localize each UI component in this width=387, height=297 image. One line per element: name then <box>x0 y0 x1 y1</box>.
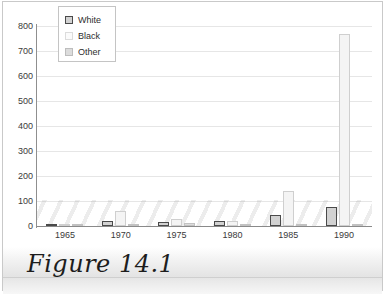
bar-black-1980 <box>227 221 238 227</box>
bar-white-1965 <box>46 224 57 226</box>
bar-white-1985 <box>270 215 281 226</box>
legend-label-white: White <box>78 15 101 25</box>
x-axis-labels: 196519701975198019851990 <box>37 230 372 244</box>
bar-black-1985 <box>283 191 294 226</box>
y-tick-700: 700 <box>3 47 33 56</box>
bar-black-1965 <box>59 224 70 226</box>
y-tick-0: 0 <box>3 222 33 231</box>
gridline-400 <box>37 126 372 127</box>
y-tick-500: 500 <box>3 97 33 106</box>
y-tick-300: 300 <box>3 147 33 156</box>
x-tick-1975: 1975 <box>167 230 187 240</box>
bar-other-1965 <box>72 224 83 226</box>
gridline-500 <box>37 101 372 102</box>
hatch-watermark-band <box>37 200 372 226</box>
bar-black-1990 <box>339 34 350 227</box>
gridline-600 <box>37 76 372 77</box>
legend-item-white: White <box>65 12 110 27</box>
bar-black-1970 <box>115 211 126 227</box>
series-white-swatch-icon <box>65 16 73 24</box>
gridline-baseline <box>37 226 372 227</box>
bar-black-1975 <box>171 219 182 227</box>
bar-white-1970 <box>102 221 113 226</box>
series-black-swatch-icon <box>65 32 73 40</box>
series-other-swatch-icon <box>65 48 73 56</box>
caption-band: Figure 14.1 <box>3 247 382 294</box>
bar-white-1975 <box>158 222 169 227</box>
y-tick-800: 800 <box>3 22 33 31</box>
figure-caption: Figure 14.1 <box>27 249 174 279</box>
x-tick-1990: 1990 <box>334 230 354 240</box>
bar-other-1980 <box>240 224 251 226</box>
bar-other-1970 <box>128 224 139 226</box>
legend-label-black: Black <box>78 31 100 41</box>
chart-legend: White Black Other <box>58 6 116 62</box>
legend-item-black: Black <box>65 28 110 43</box>
gridline-100 <box>37 201 372 202</box>
x-tick-1985: 1985 <box>278 230 298 240</box>
bar-other-1985 <box>296 224 307 226</box>
y-tick-600: 600 <box>3 72 33 81</box>
gridline-200 <box>37 176 372 177</box>
gridline-300 <box>37 151 372 152</box>
bar-other-1975 <box>184 223 195 226</box>
legend-item-other: Other <box>65 44 110 59</box>
x-tick-1980: 1980 <box>222 230 242 240</box>
y-tick-100: 100 <box>3 197 33 206</box>
bar-white-1980 <box>214 221 225 226</box>
figure-container: 800 700 600 500 400 300 200 100 0 196519… <box>0 0 387 297</box>
y-tick-400: 400 <box>3 122 33 131</box>
x-tick-1965: 1965 <box>55 230 75 240</box>
bar-white-1990 <box>326 207 337 227</box>
bar-other-1990 <box>352 224 363 226</box>
x-tick-1970: 1970 <box>111 230 131 240</box>
y-tick-200: 200 <box>3 172 33 181</box>
legend-label-other: Other <box>78 47 101 57</box>
